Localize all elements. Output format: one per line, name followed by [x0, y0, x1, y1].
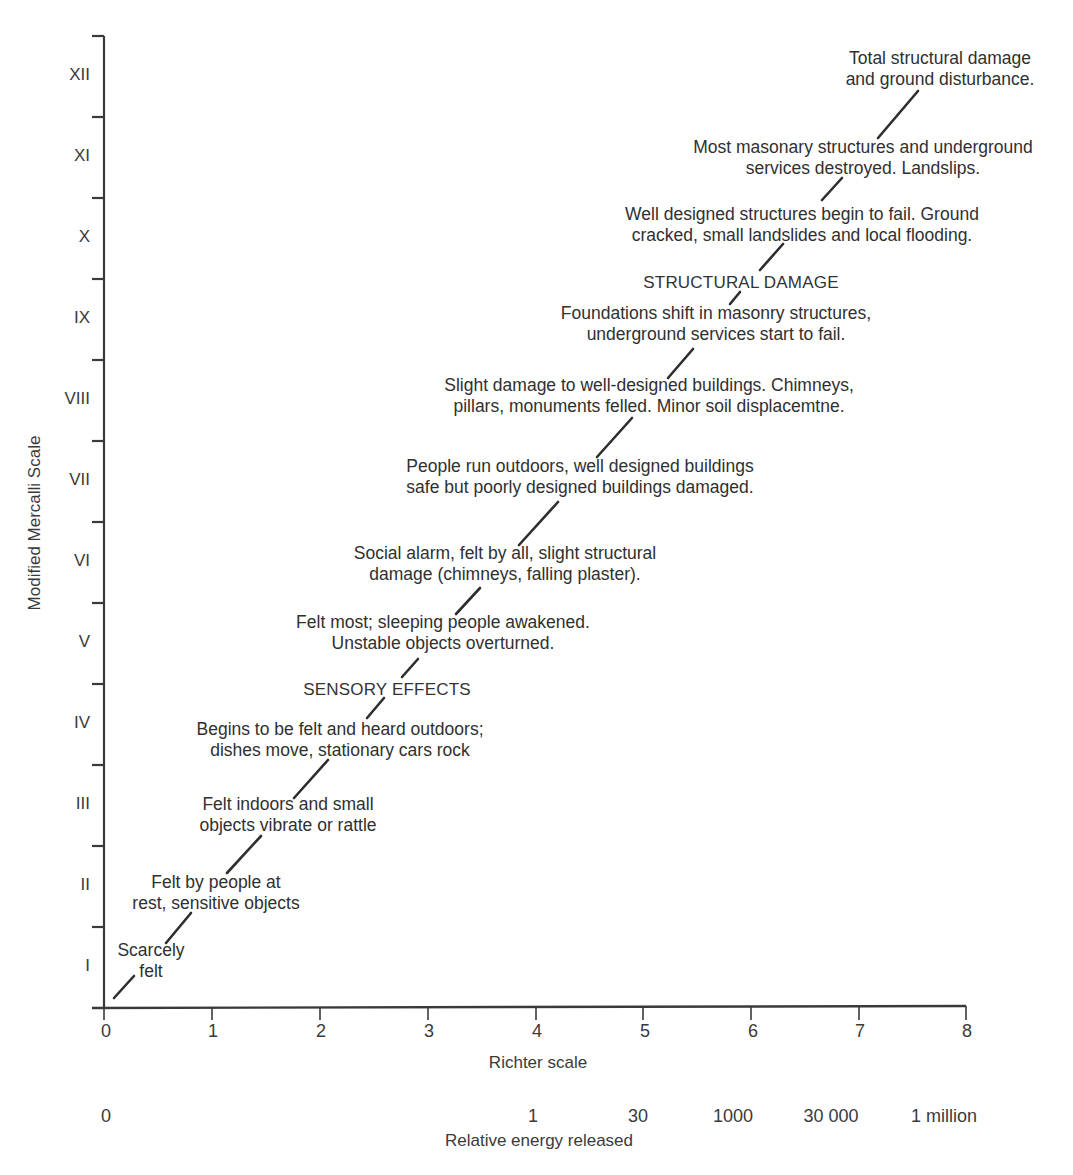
annotation-level-xi: Most masonary structures and underground…	[693, 137, 1032, 179]
energy-tick-label: 0	[101, 1106, 111, 1127]
x-tick-label: 6	[738, 1021, 768, 1042]
x-tick-label: 4	[522, 1021, 552, 1042]
y-tick-label: VIII	[50, 389, 90, 409]
y-axis-title: Modified Mercalli Scale	[25, 436, 45, 611]
x-axis	[92, 1006, 966, 1020]
y-tick-label: VII	[50, 470, 90, 490]
y-tick-label: XII	[50, 65, 90, 85]
y-tick-label: X	[50, 227, 90, 247]
y-tick-label: III	[50, 794, 90, 814]
annotation-level-ii: Felt by people at rest, sensitive object…	[132, 872, 299, 914]
y-tick-label: IX	[50, 308, 90, 328]
energy-tick-label: 1000	[713, 1106, 753, 1127]
section-sensory-effects: SENSORY EFFECTS	[303, 679, 471, 700]
y-tick-label: V	[50, 632, 90, 652]
annotation-level-i: Scarcely felt	[117, 940, 184, 982]
energy-tick-label: 1	[528, 1106, 538, 1127]
x-tick-label: 1	[198, 1021, 228, 1042]
annotation-level-vi: Social alarm, felt by all, slight struct…	[354, 543, 656, 585]
x-tick-label: 8	[952, 1021, 982, 1042]
energy-axis-title: Relative energy released	[445, 1131, 633, 1151]
y-tick-label: VI	[50, 551, 90, 571]
x-axis-title: Richter scale	[489, 1053, 587, 1073]
annotation-level-x: Well designed structures begin to fail. …	[625, 204, 979, 246]
annotation-level-iv: Begins to be felt and heard outdoors; di…	[196, 719, 483, 761]
annotation-level-ix: Foundations shift in masonry structures,…	[561, 303, 871, 345]
y-tick-label: XI	[50, 146, 90, 166]
x-tick-label: 7	[845, 1021, 875, 1042]
annotation-level-viii: Slight damage to well-designed buildings…	[444, 375, 854, 417]
section-structural-damage: STRUCTURAL DAMAGE	[643, 272, 838, 293]
x-tick-label: 5	[630, 1021, 660, 1042]
energy-tick-label: 30 000	[803, 1106, 858, 1127]
energy-tick-label: 1 million	[911, 1106, 977, 1127]
annotation-level-iii: Felt indoors and small objects vibrate o…	[199, 794, 376, 836]
x-tick-label: 2	[306, 1021, 336, 1042]
y-tick-label: IV	[50, 713, 90, 733]
annotation-level-xii: Total structural damage and ground distu…	[846, 48, 1035, 90]
x-tick-label: 3	[414, 1021, 444, 1042]
y-tick-label: I	[50, 956, 90, 976]
x-tick-label: 0	[91, 1021, 121, 1042]
y-axis	[92, 36, 104, 1008]
annotation-level-vii: People run outdoors, well designed build…	[406, 456, 753, 498]
energy-tick-label: 30	[628, 1106, 648, 1127]
y-tick-label: II	[50, 875, 90, 895]
annotation-level-v: Felt most; sleeping people awakened. Uns…	[296, 612, 590, 654]
